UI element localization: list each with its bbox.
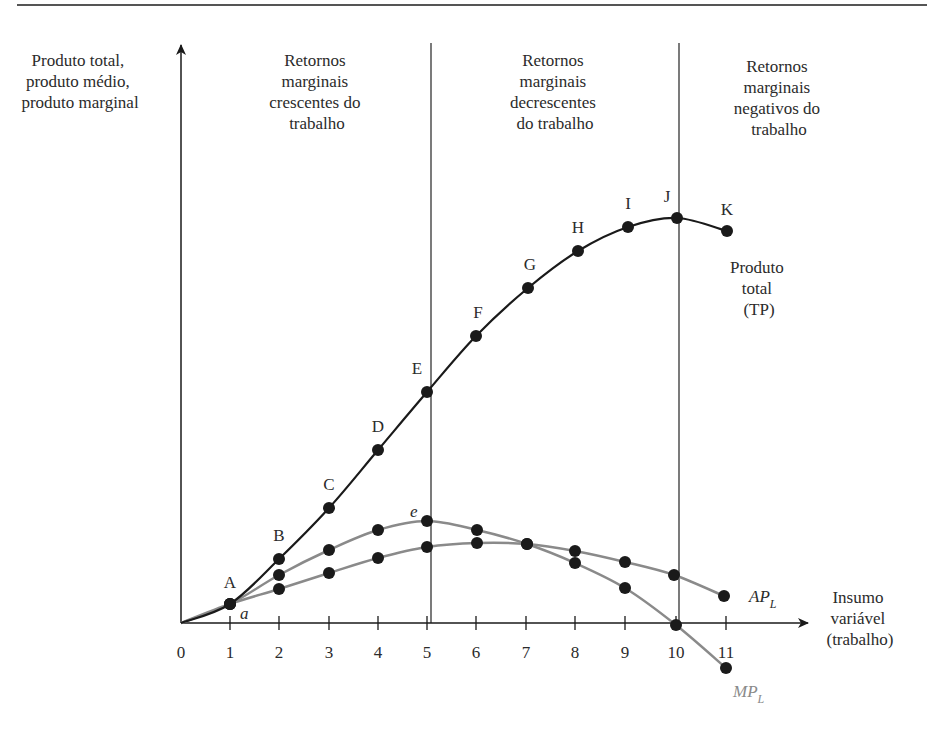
x-tick-label: 0 [177, 643, 186, 662]
data-point [273, 553, 285, 565]
data-point [569, 557, 581, 569]
tp-curve [181, 218, 727, 623]
tp-series-label: Produto total (TP) [730, 258, 788, 319]
data-point [323, 502, 335, 514]
x-tick-label: 10 [668, 643, 685, 662]
x-tick-label: 2 [275, 643, 284, 662]
data-point [372, 444, 384, 456]
data-point [470, 330, 482, 342]
data-point [273, 569, 285, 581]
data-point [718, 590, 730, 602]
data-point [372, 552, 384, 564]
data-point [622, 221, 634, 233]
data-point [273, 583, 285, 595]
data-point [521, 538, 533, 550]
x-tick-label: 8 [571, 643, 580, 662]
data-point [372, 524, 384, 536]
data-point [224, 598, 236, 610]
x-axis-label: Insumo variável (trabalho) [826, 588, 893, 649]
data-point [670, 619, 682, 631]
tp-point-label: I [625, 194, 631, 213]
tp-point-label: F [473, 303, 482, 322]
tp-point-label: J [664, 187, 671, 206]
tp-point-label: K [721, 200, 734, 219]
x-tick-label: 3 [325, 643, 334, 662]
data-point [572, 245, 584, 257]
data-point [471, 537, 483, 549]
tp-point-label: D [372, 417, 384, 436]
data-point [668, 569, 680, 581]
x-tick-label: 1 [226, 643, 235, 662]
data-point [421, 541, 433, 553]
x-tick-label: 11 [718, 643, 734, 662]
data-point [619, 582, 631, 594]
mp-series-label: MPL [732, 682, 765, 706]
data-point [471, 524, 483, 536]
chart-canvas: 01234567891011 ABCDEFGHIJK Produto total… [0, 0, 927, 744]
x-tick-label: 4 [374, 643, 383, 662]
region-label-crescentes: Retornos marginais crescentes do trabalh… [269, 51, 364, 133]
x-axis-tick-labels: 01234567891011 [177, 643, 734, 662]
data-point [522, 282, 534, 294]
ap-points [224, 537, 730, 610]
x-tick-label: 5 [423, 643, 432, 662]
tp-point-label: H [572, 218, 584, 237]
region-label-negativos: Retornos marginais negativos do trabalho [734, 57, 825, 139]
data-point [671, 212, 683, 224]
ap-series-label: APL [748, 587, 777, 611]
data-point [323, 544, 335, 556]
data-point [421, 515, 433, 527]
tp-point-label: A [224, 573, 237, 592]
data-point [569, 545, 581, 557]
mp-annotation-e: e [410, 502, 418, 521]
data-point [323, 567, 335, 579]
tp-point-label: G [524, 255, 536, 274]
tp-point-label: C [323, 475, 334, 494]
x-tick-label: 6 [472, 643, 481, 662]
data-point [720, 662, 732, 674]
data-point [721, 225, 733, 237]
y-axis-label: Produto total, produto médio, produto ma… [21, 51, 139, 112]
x-tick-label: 9 [621, 643, 630, 662]
tp-points [224, 212, 733, 610]
x-tick-label: 7 [522, 643, 531, 662]
ap-curve [181, 543, 724, 623]
tp-point-label: E [412, 359, 422, 378]
data-point [421, 386, 433, 398]
tp-point-label: B [273, 526, 284, 545]
region-label-decrescentes: Retornos marginais decrescentes do traba… [510, 51, 600, 133]
mp-annotation-a: a [240, 604, 249, 623]
data-point [619, 556, 631, 568]
